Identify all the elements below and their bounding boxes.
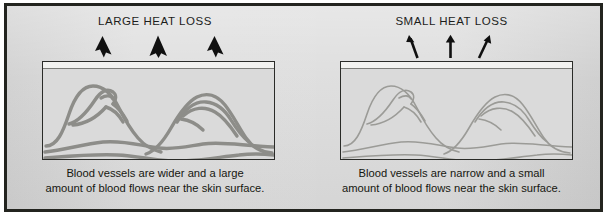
- caption-line-2: amount of blood flows near the skin surf…: [303, 181, 600, 196]
- arrow-group-large-heat-loss: [7, 34, 303, 60]
- caption-small-heat-loss: Blood vessels are narrow and a small amo…: [303, 166, 600, 195]
- panel-small-heat-loss: SMALL HEAT LOSS: [303, 6, 600, 209]
- skin-block-right: [340, 61, 573, 160]
- caption-large-heat-loss: Blood vessels are wider and a large amou…: [7, 166, 303, 195]
- caption-line-2: amount of blood flows near the skin surf…: [7, 181, 303, 196]
- panel-heading-small-heat-loss: SMALL HEAT LOSS: [303, 15, 600, 27]
- arrow-group-small-heat-loss: [303, 34, 600, 60]
- blood-vessels-wide-diagram: [43, 62, 275, 160]
- panel-large-heat-loss: LARGE HEAT LOSS: [7, 6, 303, 209]
- blood-vessels-narrow-diagram: [341, 62, 573, 160]
- skin-block-left: [42, 61, 275, 160]
- thin-arrows-icon: [303, 34, 600, 60]
- caption-line-1: Blood vessels are narrow and a small: [303, 166, 600, 181]
- panel-heading-large-heat-loss: LARGE HEAT LOSS: [7, 15, 303, 27]
- heat-loss-figure: LARGE HEAT LOSS: [0, 0, 607, 218]
- figure-outer-frame: LARGE HEAT LOSS: [4, 3, 603, 212]
- caption-line-1: Blood vessels are wider and a large: [7, 166, 303, 181]
- thick-arrows-icon: [7, 34, 303, 60]
